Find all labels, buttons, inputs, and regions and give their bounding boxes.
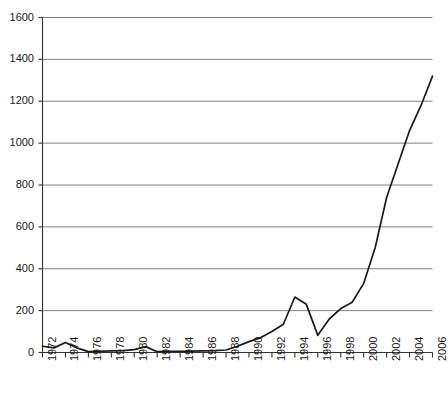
x-axis-tick-label: 1980 bbox=[138, 336, 149, 360]
y-axis-tick-label: 600 bbox=[0, 221, 34, 232]
x-axis-tick-label: 1978 bbox=[115, 336, 126, 360]
x-axis-tick-label: 2004 bbox=[414, 336, 425, 360]
y-axis-tick-label: 400 bbox=[0, 263, 34, 274]
x-axis-tick-label: 1996 bbox=[322, 336, 333, 360]
y-axis-tick-label: 1400 bbox=[0, 53, 34, 64]
x-axis-tick-label: 1988 bbox=[230, 336, 241, 360]
x-axis-tick-label: 1990 bbox=[253, 336, 264, 360]
x-axis-tick-label: 1986 bbox=[207, 336, 218, 360]
x-axis-tick-label: 2002 bbox=[391, 336, 402, 360]
y-axis-tick-label: 1200 bbox=[0, 95, 34, 106]
y-axis-tick-label: 200 bbox=[0, 305, 34, 316]
y-axis-tick-label: 1600 bbox=[0, 12, 34, 23]
x-axis-tick-label: 1998 bbox=[345, 336, 356, 360]
x-axis-tick-label: 2000 bbox=[368, 336, 379, 360]
x-axis-tick-label: 1976 bbox=[92, 336, 103, 360]
y-axis-tick-label: 800 bbox=[0, 179, 34, 190]
x-axis-tick-label: 1992 bbox=[276, 336, 287, 360]
x-axis-tick-label: 2006 bbox=[437, 336, 448, 360]
x-axis-tick-label: 1984 bbox=[184, 336, 195, 360]
x-axis-tick-label: 1982 bbox=[161, 336, 172, 360]
y-axis-tick-label: 1000 bbox=[0, 137, 34, 148]
x-axis-tick-label: 1972 bbox=[47, 336, 58, 360]
x-axis-tick-label: 1994 bbox=[299, 336, 310, 360]
y-axis-tick-label: 0 bbox=[0, 347, 34, 358]
x-axis-tick-label: 1974 bbox=[69, 336, 80, 360]
